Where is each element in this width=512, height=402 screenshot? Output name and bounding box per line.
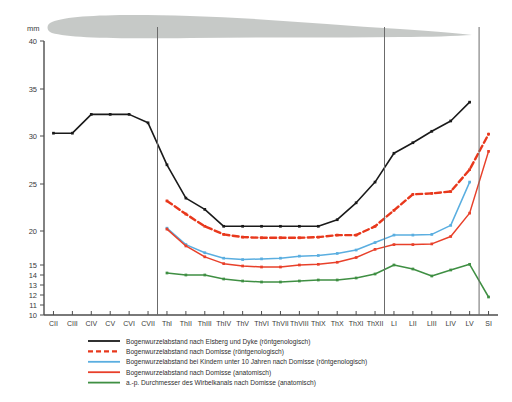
data-point	[430, 130, 433, 133]
data-point	[355, 201, 358, 204]
data-point	[109, 113, 112, 116]
x-tick-label: ThVII	[272, 320, 289, 327]
data-point	[241, 225, 244, 228]
x-tick-label: ThII	[180, 320, 192, 327]
data-point	[487, 133, 490, 136]
data-point	[203, 274, 206, 277]
data-point	[336, 261, 339, 264]
y-tick-label: 30	[29, 132, 37, 141]
data-point	[222, 257, 225, 260]
data-point	[393, 264, 396, 267]
chart-canvas: mm4035302520151413121110CIICIIICIVCVCVIC…	[0, 0, 512, 402]
data-point	[317, 279, 320, 282]
data-point	[279, 266, 282, 269]
data-point	[298, 236, 301, 239]
data-point	[412, 141, 415, 144]
data-point	[449, 269, 452, 272]
x-tick-label: CII	[49, 320, 58, 327]
x-tick-label: LII	[409, 320, 417, 327]
data-point	[166, 163, 169, 166]
data-point	[203, 225, 206, 228]
data-point	[222, 225, 225, 228]
x-tick-label: ThIV	[216, 320, 231, 327]
data-point	[241, 236, 244, 239]
data-point	[412, 268, 415, 271]
data-point	[430, 243, 433, 246]
legend-item: Bogenwurzelabstand bei Kindern unter 10 …	[88, 358, 367, 366]
data-point	[317, 254, 320, 257]
data-point	[449, 224, 452, 227]
data-point	[336, 252, 339, 255]
data-point	[279, 281, 282, 284]
data-point	[128, 113, 131, 116]
data-point	[374, 273, 377, 276]
x-tick-label: LIII	[427, 320, 437, 327]
data-point	[222, 233, 225, 236]
data-point	[317, 225, 320, 228]
y-tick-label: 11	[29, 301, 37, 310]
data-point	[449, 120, 452, 123]
data-point	[374, 225, 377, 228]
data-point	[203, 208, 206, 211]
data-point	[185, 245, 188, 248]
x-tick-label: LIV	[445, 320, 456, 327]
data-point	[430, 275, 433, 278]
legend-label: Bogenwurzelabstand nach Domisse (anatomi…	[126, 369, 271, 377]
data-point	[222, 278, 225, 281]
data-point	[430, 233, 433, 236]
data-point	[279, 225, 282, 228]
legend-label: Bogenwurzelabstand nach Elsberg und Dyke…	[126, 338, 310, 346]
data-point	[166, 272, 169, 275]
data-point	[317, 263, 320, 266]
data-point	[71, 132, 74, 135]
data-point	[279, 236, 282, 239]
data-point	[487, 150, 490, 153]
x-tick-label: CIII	[67, 320, 78, 327]
data-point	[355, 249, 358, 252]
data-point	[203, 255, 206, 258]
data-point	[468, 263, 471, 266]
data-point	[166, 200, 169, 203]
x-tick-label: LI	[391, 320, 397, 327]
data-point	[260, 281, 263, 284]
data-point	[166, 228, 169, 231]
y-tick-label: 10	[29, 311, 37, 320]
legend-item: a.-p. Durchmesser des Wirbelkanals nach …	[88, 379, 316, 387]
y-tick-label: 20	[29, 227, 37, 236]
plot-area	[52, 101, 490, 299]
data-point	[260, 225, 263, 228]
data-point	[449, 190, 452, 193]
y-tick-label: 35	[29, 85, 37, 94]
y-tick-label: 25	[29, 180, 37, 189]
spinal-canal-silhouette	[48, 15, 473, 38]
data-point	[185, 197, 188, 200]
data-point	[260, 236, 263, 239]
data-point	[185, 274, 188, 277]
series-4	[166, 263, 490, 298]
legend-item: Bogenwurzelabstand nach Domisse (röntgen…	[88, 348, 284, 356]
data-point	[336, 234, 339, 237]
x-tick-label: ThXI	[349, 320, 364, 327]
data-point	[336, 218, 339, 221]
x-tick-label: ThV	[236, 320, 249, 327]
data-point	[298, 264, 301, 267]
data-point	[468, 101, 471, 104]
data-point	[374, 181, 377, 184]
data-point	[412, 243, 415, 246]
data-point	[298, 225, 301, 228]
series-line	[53, 102, 469, 226]
series-3	[166, 150, 490, 268]
data-point	[241, 258, 244, 261]
data-point	[336, 279, 339, 282]
series-line	[167, 151, 489, 267]
data-point	[260, 266, 263, 269]
x-tick-label: ThIX	[311, 320, 326, 327]
data-point	[355, 256, 358, 259]
data-point	[90, 113, 93, 116]
data-point	[468, 181, 471, 184]
data-point	[203, 251, 206, 254]
data-point	[241, 280, 244, 283]
data-point	[147, 121, 150, 124]
x-tick-label: CIV	[85, 320, 97, 327]
data-point	[412, 234, 415, 237]
